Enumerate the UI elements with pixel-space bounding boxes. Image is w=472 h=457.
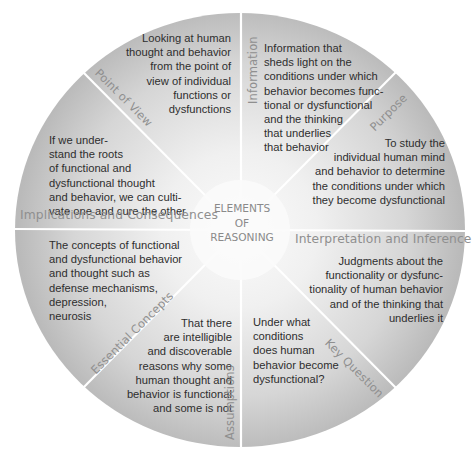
segment-label-assumptions: Assumptions: [223, 365, 237, 440]
segment-text-point-of-view: Looking at human thought and behavior fr…: [91, 31, 231, 116]
segment-label-information: Information: [246, 36, 260, 104]
segment-label-interpretation: Interpretation and Inference: [295, 232, 471, 246]
segment-text-implications: If we under- stand the roots of function…: [49, 133, 186, 218]
segment-text-purpose: To study the individual human mind and b…: [245, 136, 445, 207]
segment-label-implications: Implications and Consequences: [20, 208, 218, 222]
segment-text-assumptions: That there are intelligible and discover…: [72, 316, 232, 415]
